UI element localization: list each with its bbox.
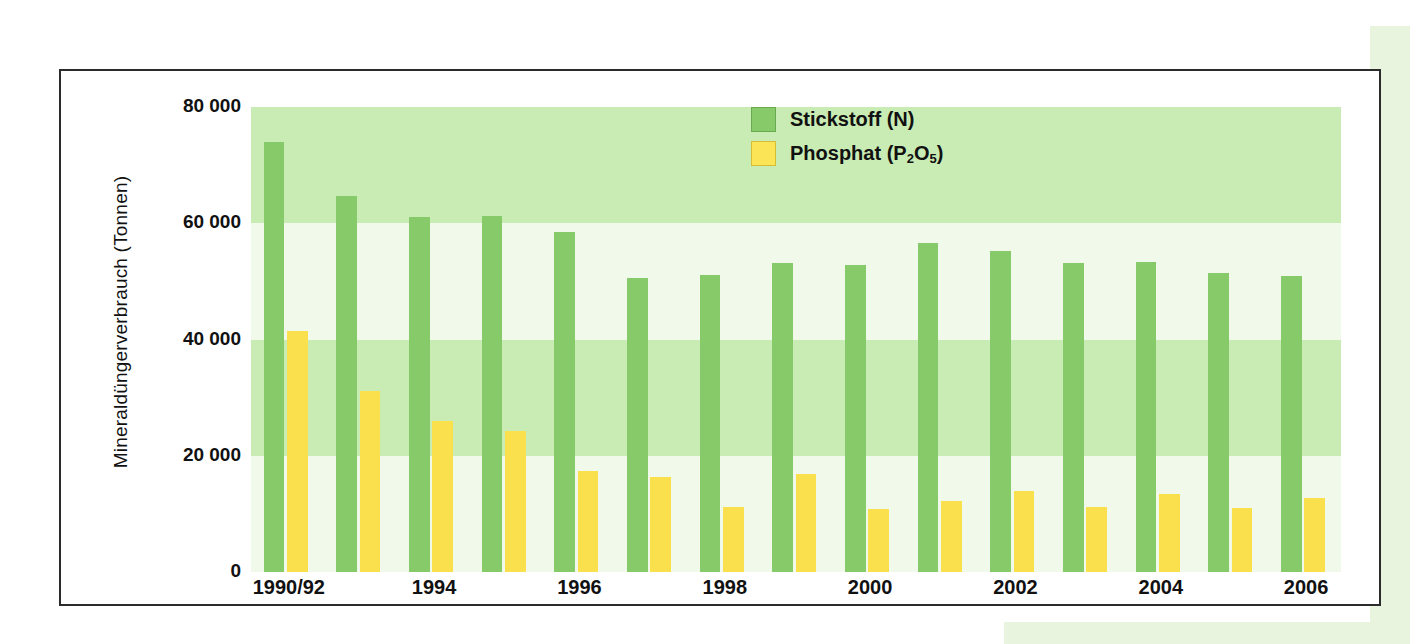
plot-area [251,107,1341,572]
bar-nitrogen[interactable] [482,216,503,572]
x-axis-tick-label: 1990/92 [253,576,325,599]
y-axis-tick-label: 80 000 [91,95,241,117]
legend-swatch-phosphate-icon [751,141,776,166]
bar-group [978,107,1051,572]
bar-phosphate[interactable] [505,431,526,572]
bar-nitrogen[interactable] [1208,273,1229,572]
bar-nitrogen[interactable] [700,275,721,572]
bar-phosphate[interactable] [578,471,599,572]
bar-group [905,107,978,572]
bar-group [760,107,833,572]
bar-group [469,107,542,572]
bar-group [542,107,615,572]
bar-nitrogen[interactable] [1281,276,1302,572]
chart-frame: Mineraldüngerverbrauch (Tonnen) 020 0004… [59,69,1381,606]
bar-group [614,107,687,572]
bar-nitrogen[interactable] [627,278,648,572]
bar-phosphate[interactable] [1304,498,1325,572]
y-axis-tick-label: 60 000 [91,211,241,233]
bar-group [251,107,324,572]
bar-nitrogen[interactable] [990,251,1011,572]
bar-phosphate[interactable] [432,421,453,572]
bar-phosphate[interactable] [941,501,962,572]
x-axis-tick-label: 2004 [1139,576,1184,599]
bar-phosphate[interactable] [287,331,308,572]
bar-series-container [251,107,1341,572]
bar-phosphate[interactable] [1014,491,1035,572]
bar-group [1196,107,1269,572]
bar-group [1268,107,1341,572]
bar-phosphate[interactable] [1232,508,1253,572]
bar-group [396,107,469,572]
legend-label-nitrogen: Stickstoff (N) [790,108,914,131]
bar-phosphate[interactable] [360,391,381,572]
x-axis-tick-label: 2002 [993,576,1038,599]
bar-phosphate[interactable] [1159,494,1180,572]
y-axis-tick-labels: 020 00040 00060 00080 000 [81,71,241,608]
x-axis-tick-labels: 1990/921994199619982000200220042006 [251,576,1341,616]
bar-phosphate[interactable] [650,477,671,572]
chart-card: Mineraldüngerverbrauch (Tonnen) 020 0004… [14,22,1370,622]
bar-phosphate[interactable] [868,509,889,572]
y-axis-tick-label: 0 [91,560,241,582]
bar-group [1050,107,1123,572]
bar-nitrogen[interactable] [554,232,575,572]
bar-nitrogen[interactable] [1136,262,1157,572]
x-axis-tick-label: 2006 [1284,576,1329,599]
bar-phosphate[interactable] [1086,507,1107,572]
bar-nitrogen[interactable] [918,243,939,572]
bar-phosphate[interactable] [723,507,744,572]
legend-item-phosphat: Phosphat (P2O5) [751,141,943,166]
bar-group [1123,107,1196,572]
x-axis-tick-label: 2000 [848,576,893,599]
bar-nitrogen[interactable] [409,217,430,572]
bar-nitrogen[interactable] [336,196,357,572]
legend-item-stickstoff: Stickstoff (N) [751,107,943,132]
bar-nitrogen[interactable] [845,265,866,572]
y-axis-tick-label: 20 000 [91,444,241,466]
x-axis-tick-label: 1994 [412,576,457,599]
x-axis-tick-label: 1998 [703,576,748,599]
bar-phosphate[interactable] [796,474,817,572]
chart-legend: Stickstoff (N) Phosphat (P2O5) [751,107,943,175]
legend-label-phosphate: Phosphat (P2O5) [790,142,943,166]
x-axis-tick-label: 1996 [557,576,602,599]
bar-group [324,107,397,572]
y-axis-tick-label: 40 000 [91,328,241,350]
legend-swatch-nitrogen-icon [751,107,776,132]
bar-nitrogen[interactable] [264,142,285,572]
bar-nitrogen[interactable] [772,263,793,572]
bar-group [687,107,760,572]
bar-nitrogen[interactable] [1063,263,1084,572]
bar-group [832,107,905,572]
